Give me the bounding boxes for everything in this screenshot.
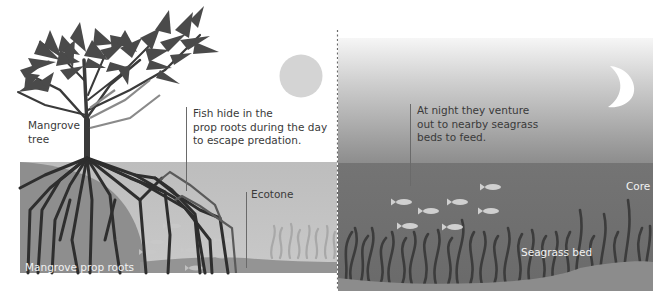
- night-panel: [338, 38, 653, 291]
- label-seagrass-bed: Seagrass bed: [521, 246, 592, 260]
- night-sky: [338, 38, 653, 164]
- label-night-callout: At night they venture out to nearby seag…: [417, 104, 538, 145]
- habitat-diagram: Mangrove tree Fish hide in the prop root…: [0, 0, 668, 305]
- label-core: Core: [626, 180, 650, 194]
- label-ecotone: Ecotone: [251, 188, 294, 202]
- sun-icon: [280, 55, 323, 98]
- label-mangrove-tree: Mangrove tree: [28, 119, 80, 146]
- label-day-callout: Fish hide in the prop roots during the d…: [193, 107, 327, 148]
- ecotone-callout-line: [246, 192, 247, 268]
- label-prop-roots: Mangrove prop roots: [25, 261, 134, 275]
- night-callout-line: [410, 104, 411, 186]
- day-callout-line: [186, 107, 187, 191]
